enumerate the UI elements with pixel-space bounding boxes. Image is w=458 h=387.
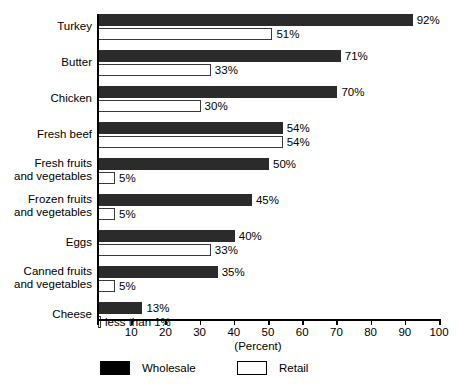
- x-axis-title: (Percent): [0, 340, 458, 352]
- x-axis-tick-label: 30: [185, 326, 215, 339]
- bar-value-label: 92%: [417, 14, 440, 26]
- bar-wholesale: [98, 14, 413, 26]
- bar-value-label: 30%: [205, 100, 228, 112]
- bar-retail: [98, 100, 201, 112]
- bar-value-label: 50%: [273, 158, 296, 170]
- bar-value-label: 35%: [222, 266, 245, 278]
- bar-value-label: 51%: [276, 28, 299, 40]
- bar-value-label: 54%: [287, 136, 310, 148]
- x-axis-tick: [302, 320, 304, 325]
- bar-chart: Turkey Butter Chicken Fresh beef Fresh f…: [0, 0, 458, 387]
- legend-swatch-icon: [100, 361, 130, 375]
- x-axis-tick-label: 80: [356, 326, 386, 339]
- x-axis-tick-label: 60: [287, 326, 317, 339]
- bar-value-label: 5%: [119, 208, 136, 220]
- y-axis-line: [97, 14, 99, 320]
- bar-value-label: 71%: [345, 50, 368, 62]
- bar-value-label: 70%: [341, 86, 364, 98]
- bar-retail: [98, 136, 283, 148]
- x-axis-tick: [268, 320, 270, 325]
- bar-value-label: 5%: [119, 280, 136, 292]
- bar-retail: [98, 244, 211, 256]
- x-axis-tick: [131, 320, 133, 325]
- bar-value-label: 5%: [119, 172, 136, 184]
- bar-value-label: 33%: [215, 64, 238, 76]
- bar-retail: [98, 172, 115, 184]
- bar-value-label: 45%: [256, 194, 279, 206]
- category-label: Frozen fruits and vegetables: [14, 193, 92, 219]
- bar-value-label: 54%: [287, 122, 310, 134]
- legend-label: Wholesale: [142, 362, 196, 374]
- bar-retail: [98, 280, 115, 292]
- bar-wholesale: [98, 50, 341, 62]
- x-axis-tick: [405, 320, 407, 325]
- bar-wholesale: [98, 86, 337, 98]
- bar-retail: [98, 64, 211, 76]
- x-axis-tick: [165, 320, 167, 325]
- category-label: Eggs: [66, 236, 92, 249]
- plot-area: 92%51%71%33%70%30%54%54%50%5%45%5%40%33%…: [98, 14, 440, 319]
- x-axis-tick: [439, 320, 441, 325]
- x-axis-tick-label: 50: [253, 326, 283, 339]
- bar-wholesale: [98, 302, 142, 314]
- x-axis-tick-label: 20: [150, 326, 180, 339]
- category-label: Cheese: [52, 308, 92, 321]
- bar-retail: [98, 28, 272, 40]
- x-axis-title-text: (Percent): [176, 340, 281, 352]
- category-label: Chicken: [50, 92, 92, 105]
- bar-value-label: 40%: [239, 230, 262, 242]
- category-label: Fresh fruits and vegetables: [14, 157, 92, 183]
- x-axis-tick: [234, 320, 236, 325]
- bar-value-label: 13%: [146, 302, 169, 314]
- x-axis-tick-label: 90: [390, 326, 420, 339]
- bar-wholesale: [98, 230, 235, 242]
- bar-wholesale: [98, 266, 218, 278]
- category-label: Canned fruits and vegetables: [14, 265, 92, 291]
- bar-wholesale: [98, 194, 252, 206]
- x-axis-tick: [336, 320, 338, 325]
- category-label: Butter: [61, 56, 92, 69]
- legend-swatch-icon: [237, 361, 267, 375]
- bar-wholesale: [98, 158, 269, 170]
- x-axis-tick: [200, 320, 202, 325]
- x-axis-tick: [97, 320, 99, 325]
- legend-label: Retail: [279, 362, 308, 374]
- bar-retail: [98, 208, 115, 220]
- legend-item-wholesale: Wholesale: [100, 360, 196, 376]
- x-axis-tick: [371, 320, 373, 325]
- bar-wholesale: [98, 122, 283, 134]
- legend: Wholesale Retail: [100, 360, 400, 380]
- category-label: Fresh beef: [37, 128, 92, 141]
- legend-item-retail: Retail: [237, 360, 308, 376]
- bar-value-label: 33%: [215, 244, 238, 256]
- category-label: Turkey: [57, 20, 92, 33]
- x-axis-tick-label: 10: [116, 326, 146, 339]
- x-axis-tick-label: 40: [219, 326, 249, 339]
- x-axis-tick-label: 70: [321, 326, 351, 339]
- x-axis-tick-label: 100: [424, 326, 454, 339]
